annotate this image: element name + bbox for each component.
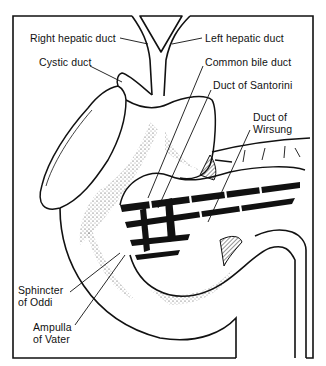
label-cystic-duct: Cystic duct <box>39 56 91 68</box>
label-ampulla-of-vater-line2: of Vater <box>33 333 72 345</box>
label-ampulla-of-vater: Ampulla of Vater <box>33 321 72 345</box>
label-left-hepatic-duct: Left hepatic duct <box>205 32 284 44</box>
label-duct-of-santorini: Duct of Santorini <box>213 79 292 91</box>
label-sphincter-of-oddi-line2: of Oddi <box>18 296 63 308</box>
label-duct-of-wirsung-line2: Wirsung <box>253 123 292 135</box>
label-right-hepatic-duct: Right hepatic duct <box>30 32 116 44</box>
duodenum-loop <box>60 208 306 358</box>
pancreatic-ducts <box>120 182 300 260</box>
gallbladder <box>40 73 152 209</box>
label-duct-of-wirsung-line1: Duct of <box>253 111 292 123</box>
label-sphincter-of-oddi: Sphincter of Oddi <box>18 284 63 308</box>
anatomy-illustration <box>0 0 326 366</box>
hepatic-ducts <box>132 16 190 96</box>
duodenal-folds <box>243 146 300 162</box>
label-common-bile-duct: Common bile duct <box>205 56 291 68</box>
label-duct-of-wirsung: Duct of Wirsung <box>253 111 292 135</box>
label-sphincter-of-oddi-line1: Sphincter <box>18 284 63 296</box>
label-ampulla-of-vater-line1: Ampulla <box>33 321 72 333</box>
